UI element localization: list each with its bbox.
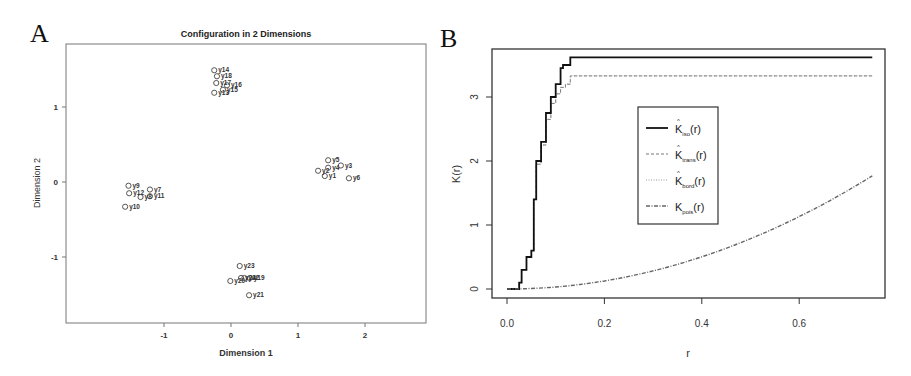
point-label: y18 — [221, 72, 232, 80]
point-label: y5 — [332, 156, 340, 164]
panel-a-title: Configuration in 2 Dimensions — [181, 29, 312, 39]
y-tick-label: 1 — [54, 103, 59, 112]
y-tick-label: 1 — [469, 222, 480, 228]
scatter-point — [237, 263, 242, 268]
panel-b-x-label: r — [686, 347, 690, 359]
panel-a-y-axis: 10-1 — [51, 103, 66, 262]
x-tick-label: 0.2 — [597, 318, 611, 329]
scatter-point — [147, 187, 152, 192]
hat-accent: ^ — [677, 170, 680, 176]
hat-accent: ^ — [677, 118, 680, 124]
scatter-point — [212, 68, 217, 73]
point-label: y23 — [244, 262, 255, 270]
point-label: y11 — [154, 192, 165, 200]
point-label: y10 — [129, 203, 140, 211]
x-tick-label: 0 — [229, 331, 234, 340]
y-tick-label: 0 — [469, 286, 480, 292]
panel-a: A Configuration in 2 Dimensions -1012 10… — [30, 19, 426, 358]
point-label: y17 — [220, 79, 231, 87]
panel-a-points: y1y2y4y5y3y6y7y8y9y10y11y12y13y14y15y16y… — [123, 66, 361, 299]
scatter-point — [246, 293, 251, 298]
panel-b-x-axis: 0.00.20.40.6 — [500, 298, 807, 329]
point-label: y1 — [329, 172, 337, 180]
x-tick-label: 0.4 — [695, 318, 709, 329]
panel-b: B 0.00.20.40.6 0123 r K(r) Kiso(r)^Ktran… — [440, 24, 885, 359]
point-label: y21 — [253, 291, 264, 299]
panel-b-y-label: K(r) — [450, 165, 462, 183]
point-label: y24 — [245, 274, 256, 282]
x-tick-label: -1 — [160, 331, 168, 340]
scatter-point — [212, 90, 217, 95]
x-tick-label: 0.6 — [792, 318, 806, 329]
scatter-point — [126, 183, 131, 188]
y-tick-label: 0 — [54, 178, 59, 187]
panel-a-x-label: Dimension 1 — [219, 348, 273, 358]
scatter-point — [326, 158, 331, 163]
scatter-point — [322, 173, 327, 178]
scatter-point — [214, 74, 219, 79]
scatter-point — [316, 168, 321, 173]
point-label: y16 — [231, 81, 242, 89]
scatter-point — [123, 204, 128, 209]
panel-a-letter: A — [30, 19, 49, 48]
point-label: y3 — [345, 162, 353, 170]
panel-b-legend: Kiso(r)^Ktrans(r)^Kbord(r)^Kpois(r) — [638, 107, 718, 224]
hat-accent: ^ — [677, 144, 680, 150]
panel-a-frame — [66, 44, 426, 323]
scatter-point — [346, 176, 351, 181]
figure: A Configuration in 2 Dimensions -1012 10… — [0, 0, 911, 376]
scatter-point — [127, 191, 132, 196]
panel-a-y-label: Dimension 2 — [32, 158, 42, 208]
x-tick-label: 1 — [296, 331, 301, 340]
point-label: y12 — [133, 189, 144, 197]
point-label: y6 — [353, 174, 361, 182]
x-tick-label: 2 — [363, 331, 368, 340]
panel-a-x-axis: -1012 — [160, 323, 367, 340]
y-tick-label: 3 — [469, 94, 480, 100]
panel-b-y-axis: 0123 — [469, 94, 492, 292]
scatter-point — [214, 80, 219, 85]
panel-b-letter: B — [440, 24, 457, 53]
y-tick-label: 2 — [469, 158, 480, 164]
scatter-point — [228, 278, 233, 283]
x-tick-label: 0.0 — [500, 318, 514, 329]
y-tick-label: -1 — [51, 253, 59, 262]
